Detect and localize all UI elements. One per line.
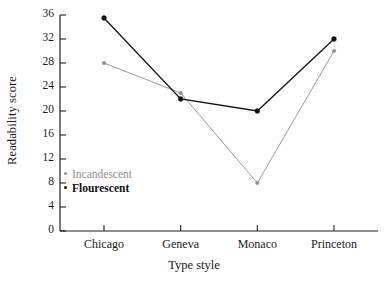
series-line-flourescent: [104, 18, 334, 111]
y-tick-label: 0: [18, 223, 54, 235]
legend-label-incandescent: Incandescent: [72, 168, 132, 180]
legend-label-flourescent: Flourescent: [72, 182, 129, 194]
chart-legend: Incandescent Flourescent: [64, 167, 132, 195]
y-tick-label: 12: [18, 151, 54, 163]
y-tick-label: 16: [18, 127, 54, 139]
legend-marker-incandescent: [64, 172, 67, 175]
data-point-incandescent-monaco: [256, 181, 260, 185]
chart-figure: Readability score Type style 04812162024…: [0, 0, 388, 283]
x-axis-title: Type style: [0, 258, 388, 273]
legend-marker-flourescent: [64, 186, 67, 189]
data-series-layer: [102, 16, 337, 185]
x-category-label: Princeton: [284, 237, 384, 252]
data-point-flourescent-monaco: [255, 109, 260, 114]
y-tick-label: 20: [18, 103, 54, 115]
data-point-incandescent-chicago: [102, 61, 106, 65]
legend-item-flourescent: Flourescent: [64, 181, 132, 194]
y-tick-label: 28: [18, 55, 54, 67]
y-tick-label: 36: [18, 7, 54, 19]
y-tick-label: 8: [18, 175, 54, 187]
y-tick-label: 32: [18, 31, 54, 43]
data-point-flourescent-chicago: [102, 16, 107, 21]
legend-item-incandescent: Incandescent: [64, 167, 132, 180]
data-point-incandescent-princeton: [332, 49, 336, 53]
data-point-flourescent-geneva: [178, 97, 183, 102]
data-point-flourescent-princeton: [332, 37, 337, 42]
y-tick-label: 24: [18, 79, 54, 91]
axis-lines: [60, 15, 378, 231]
data-point-incandescent-geneva: [179, 91, 183, 95]
y-tick-label: 4: [18, 199, 54, 211]
